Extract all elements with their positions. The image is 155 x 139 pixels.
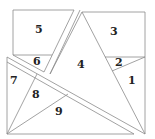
region-label-1: 1 — [128, 74, 136, 87]
region-label-2: 2 — [115, 56, 123, 69]
region-label-4: 4 — [77, 58, 85, 71]
region-5-outline — [13, 10, 74, 55]
diagram-lines — [7, 10, 145, 134]
region-label-9: 9 — [55, 105, 63, 118]
region-label-3: 3 — [110, 25, 118, 38]
strip-left-edge — [44, 10, 74, 72]
dissection-diagram: 1 2 3 4 5 6 7 8 9 — [0, 0, 155, 139]
strip-right-edge — [50, 10, 80, 74]
region-label-6: 6 — [33, 55, 41, 68]
band-lower-edge — [7, 62, 134, 134]
region-label-8: 8 — [32, 88, 40, 101]
band-upper-edge — [7, 57, 145, 134]
diagram-canvas: 1 2 3 4 5 6 7 8 9 — [0, 0, 155, 139]
region-label-7: 7 — [10, 74, 18, 87]
region-labels: 1 2 3 4 5 6 7 8 9 — [10, 23, 136, 118]
region-label-5: 5 — [35, 23, 43, 36]
